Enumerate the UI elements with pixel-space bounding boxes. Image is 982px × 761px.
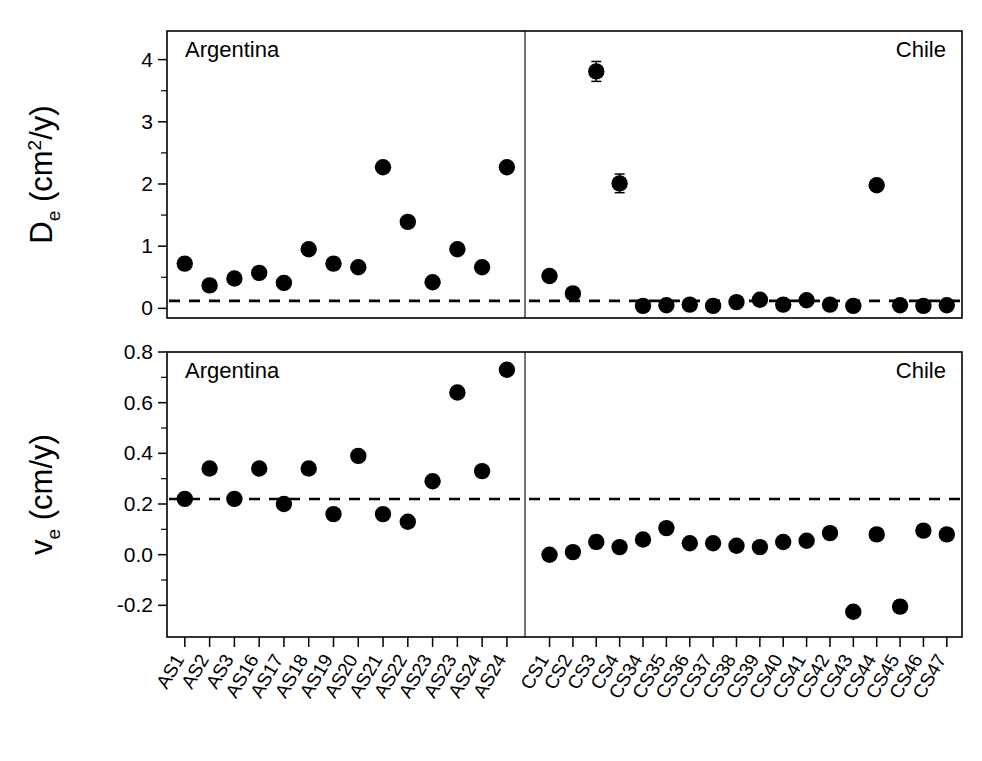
top-panel: 01234ArgentinaChileDe (cm2/y) bbox=[24, 31, 962, 319]
data-point bbox=[177, 255, 193, 271]
y-tick-label: 0 bbox=[141, 296, 153, 319]
plot-frame bbox=[167, 352, 962, 637]
data-point bbox=[705, 298, 721, 314]
data-point bbox=[728, 294, 744, 310]
data-point bbox=[588, 534, 604, 550]
data-point bbox=[915, 522, 931, 538]
data-point bbox=[915, 298, 931, 314]
annotation-chile: Chile bbox=[896, 37, 946, 62]
data-point bbox=[201, 277, 217, 293]
data-point bbox=[845, 604, 861, 620]
data-point bbox=[822, 296, 838, 312]
data-point bbox=[752, 539, 768, 555]
y-tick-label: 0.0 bbox=[124, 543, 153, 566]
y-tick-label: -0.2 bbox=[117, 593, 153, 616]
data-point bbox=[822, 525, 838, 541]
data-point bbox=[798, 533, 814, 549]
data-point bbox=[892, 598, 908, 614]
y-tick-label: 0.6 bbox=[124, 391, 153, 414]
data-point bbox=[939, 526, 955, 542]
data-point bbox=[350, 259, 366, 275]
data-point bbox=[892, 297, 908, 313]
data-point bbox=[611, 539, 627, 555]
data-point bbox=[474, 259, 490, 275]
data-point bbox=[325, 506, 341, 522]
data-point bbox=[276, 496, 292, 512]
bottom-panel: -0.20.00.20.40.60.8ArgentinaChileve (cm/… bbox=[24, 340, 962, 637]
data-point bbox=[301, 460, 317, 476]
scatter-figure: 01234ArgentinaChileDe (cm2/y) -0.20.00.2… bbox=[0, 0, 982, 761]
data-point bbox=[424, 473, 440, 489]
y-tick-label: 3 bbox=[141, 110, 153, 133]
data-point bbox=[565, 285, 581, 301]
y-tick-label: 2 bbox=[141, 172, 153, 195]
data-point bbox=[177, 491, 193, 507]
y-axis-title: ve (cm/y) bbox=[24, 434, 64, 555]
data-point bbox=[301, 241, 317, 257]
data-point bbox=[658, 520, 674, 536]
data-point bbox=[869, 177, 885, 193]
data-point bbox=[565, 544, 581, 560]
data-point bbox=[682, 535, 698, 551]
data-point bbox=[635, 531, 651, 547]
data-point bbox=[499, 362, 515, 378]
data-point bbox=[251, 460, 267, 476]
data-point bbox=[449, 241, 465, 257]
data-point bbox=[424, 274, 440, 290]
data-point bbox=[705, 535, 721, 551]
data-point bbox=[400, 514, 416, 530]
data-point bbox=[276, 275, 292, 291]
data-point bbox=[375, 506, 391, 522]
data-point bbox=[350, 448, 366, 464]
data-point bbox=[728, 538, 744, 554]
data-point bbox=[449, 384, 465, 400]
data-point bbox=[541, 268, 557, 284]
y-tick-label: 0.8 bbox=[124, 340, 153, 363]
data-point bbox=[375, 159, 391, 175]
data-point bbox=[400, 214, 416, 230]
data-point bbox=[752, 292, 768, 308]
y-tick-label: 0.4 bbox=[124, 441, 154, 464]
y-tick-label: 1 bbox=[141, 234, 153, 257]
data-point bbox=[226, 491, 242, 507]
figure-root: 01234ArgentinaChileDe (cm2/y) -0.20.00.2… bbox=[0, 0, 982, 761]
data-point bbox=[541, 547, 557, 563]
data-point bbox=[658, 297, 674, 313]
data-point bbox=[775, 534, 791, 550]
data-point bbox=[939, 297, 955, 313]
data-point bbox=[611, 175, 627, 191]
annotation-chile: Chile bbox=[896, 358, 946, 383]
data-point bbox=[251, 265, 267, 281]
y-axis-title: De (cm2/y) bbox=[24, 105, 64, 243]
data-point bbox=[325, 255, 341, 271]
data-point bbox=[869, 526, 885, 542]
annotation-argentina: Argentina bbox=[185, 358, 280, 383]
data-point bbox=[201, 460, 217, 476]
data-point bbox=[845, 298, 861, 314]
data-point bbox=[588, 63, 604, 79]
svg-text:ve (cm/y): ve (cm/y) bbox=[24, 434, 64, 555]
data-point bbox=[474, 463, 490, 479]
data-point bbox=[775, 296, 791, 312]
annotation-argentina: Argentina bbox=[185, 37, 280, 62]
svg-text:De (cm2/y): De (cm2/y) bbox=[24, 105, 64, 243]
data-point bbox=[798, 292, 814, 308]
y-tick-label: 0.2 bbox=[124, 492, 153, 515]
data-point bbox=[499, 159, 515, 175]
y-tick-label: 4 bbox=[141, 48, 153, 71]
plot-frame bbox=[167, 31, 962, 318]
x-axis-labels: AS1AS2AS3AS16AS17AS18AS19AS20AS21AS22AS2… bbox=[152, 637, 950, 702]
data-point bbox=[635, 298, 651, 314]
data-point bbox=[226, 270, 242, 286]
data-point bbox=[682, 296, 698, 312]
